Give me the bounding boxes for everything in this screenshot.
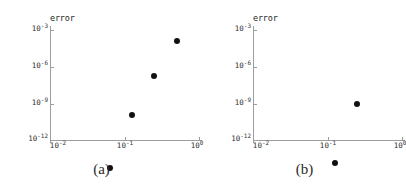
- x-tick-mantissa-a-1: 10: [117, 141, 126, 150]
- y-tick-exponent-b-2: -9: [244, 96, 251, 103]
- y-tick-mantissa-b-2: 10: [235, 98, 244, 107]
- panel-b: error 10-3 10-6 10-9 10-12 10-2 10-1 100…: [203, 0, 406, 194]
- x-tick-mantissa-a-2: 10: [191, 141, 200, 150]
- plot-area-b: [253, 29, 401, 140]
- x-tick-label-a-0: 10-2: [50, 142, 66, 150]
- y-tick-label-b-1: 10-6: [203, 62, 251, 70]
- y-tick-exponent-a-2: -9: [41, 96, 48, 103]
- y-tick-exponent-a-3: -12: [37, 132, 48, 139]
- y-tick-exponent-a-1: -6: [41, 59, 48, 66]
- plot-area-a: [50, 29, 198, 140]
- x-tick-label-b-0: 10-2: [253, 142, 269, 150]
- y-tick-label-b-2: 10-9: [203, 99, 251, 107]
- panel-caption-a: (a): [0, 162, 203, 177]
- figure-two-panel-scatter: error 10-3 10-6 10-9 10-12 10-2 10-1 100…: [0, 0, 406, 194]
- panel-a: error 10-3 10-6 10-9 10-12 10-2 10-1 100…: [0, 0, 203, 194]
- y-axis-title-a: error: [50, 14, 75, 23]
- x-tick-mantissa-b-1: 10: [320, 141, 329, 150]
- y-tick-label-b-3: 10-12: [203, 135, 251, 143]
- y-tick-mantissa-a-2: 10: [32, 98, 41, 107]
- y-tick-exponent-b-0: -3: [244, 22, 251, 29]
- y-tick-label-b-0: 10-3: [203, 25, 251, 33]
- data-point: [129, 112, 135, 118]
- x-tick-label-a-2: 100: [191, 142, 204, 150]
- y-tick-exponent-b-1: -6: [244, 59, 251, 66]
- y-tick-exponent-a-0: -3: [41, 22, 48, 29]
- x-tick-label-b-2: 100: [394, 142, 406, 150]
- x-tick-mantissa-b-0: 10: [253, 141, 262, 150]
- x-tick-label-b-1: 10-1: [320, 142, 336, 150]
- y-tick-mantissa-b-0: 10: [235, 24, 244, 33]
- x-tick-label-a-1: 10-1: [117, 142, 133, 150]
- y-axis-title-b: error: [253, 14, 278, 23]
- y-tick-exponent-b-3: -12: [240, 132, 251, 139]
- y-tick-label-a-0: 10-3: [0, 25, 48, 33]
- panel-caption-b: (b): [203, 162, 406, 177]
- x-tick-mantissa-b-2: 10: [394, 141, 403, 150]
- y-tick-mantissa-b-3: 10: [231, 134, 240, 143]
- data-point: [174, 38, 180, 44]
- y-tick-mantissa-b-1: 10: [235, 61, 244, 70]
- data-point: [354, 101, 360, 107]
- y-tick-label-a-3: 10-12: [0, 135, 48, 143]
- data-point: [151, 73, 157, 79]
- x-tick-mantissa-a-0: 10: [50, 141, 59, 150]
- y-tick-mantissa-a-0: 10: [32, 24, 41, 33]
- y-tick-label-a-1: 10-6: [0, 62, 48, 70]
- y-tick-label-a-2: 10-9: [0, 99, 48, 107]
- y-tick-mantissa-a-1: 10: [32, 61, 41, 70]
- y-tick-mantissa-a-3: 10: [28, 134, 37, 143]
